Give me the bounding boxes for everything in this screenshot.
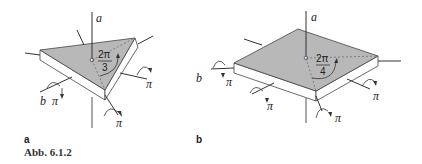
pi-label-panel-b-3: π (373, 89, 380, 103)
pi-label-panel-b-1: π (226, 75, 233, 89)
diagram-canvas: a b π π π 2π 3 a b π π π π 2π 4 (0, 0, 422, 164)
figure-caption: Abb. 6.1.2 (24, 146, 72, 158)
axis-label-b-panel-a: b (40, 94, 46, 108)
angle-denominator-panel-a: 3 (102, 62, 108, 73)
axis-label-a-panel-a: a (96, 11, 102, 25)
axis-label-b-panel-b: b (196, 71, 202, 85)
angle-numerator-panel-b: 2π (316, 53, 329, 64)
axis-label-a-panel-b: a (311, 10, 317, 24)
pi-label-panel-a-3: π (116, 116, 123, 130)
panel-label-a: a (24, 134, 30, 145)
panel-b-diagram (211, 11, 401, 123)
pi-label-panel-b-2: π (267, 99, 274, 113)
pi-label-panel-a-1: π (52, 94, 59, 108)
pi-label-panel-a-2: π (146, 77, 153, 91)
panel-a-diagram (25, 12, 153, 128)
pi-label-panel-b-4: π (335, 111, 342, 125)
angle-denominator-panel-b: 4 (320, 66, 326, 77)
panel-label-b: b (196, 134, 202, 145)
angle-numerator-panel-a: 2π (98, 49, 111, 60)
